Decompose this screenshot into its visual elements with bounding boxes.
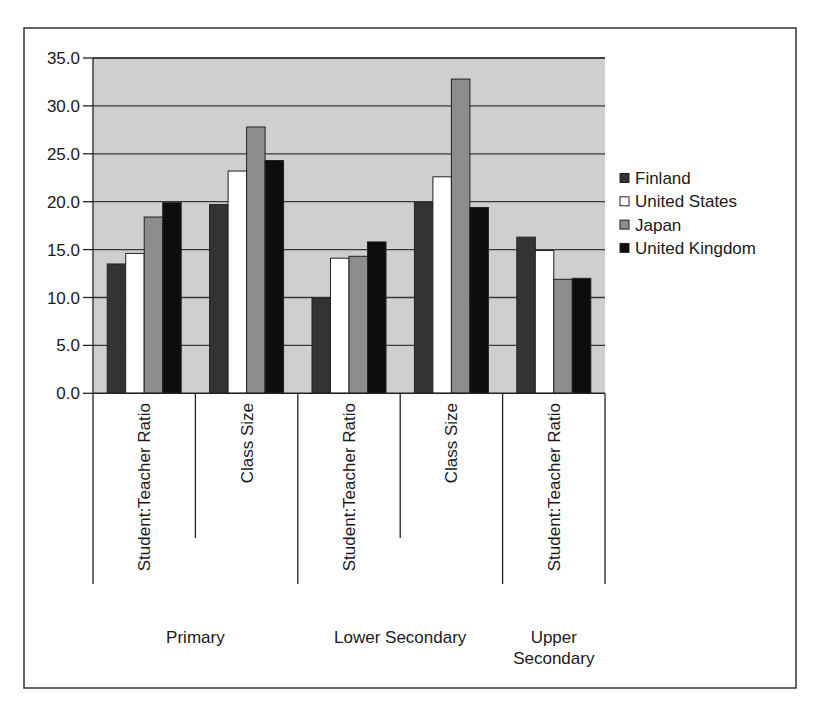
bar-united-states [331,258,350,393]
bar-united-states [228,171,247,393]
category-label: Student:Teacher Ratio [340,403,359,571]
bar-united-kingdom [163,203,182,394]
bar-finland [517,237,536,393]
bar-finland [210,205,229,394]
bar-united-kingdom [368,242,387,393]
bar-japan [451,79,470,393]
legend-swatch [620,243,629,252]
group-label: Secondary [513,649,595,668]
bar-finland [107,264,126,393]
y-tick-label: 10.0 [47,289,80,308]
category-label: Class Size [442,403,461,483]
legend-swatch [620,174,629,183]
legend-label: Finland [635,169,691,188]
y-tick-label: 5.0 [56,336,80,355]
legend-swatch [620,197,629,206]
y-tick-label: 30.0 [47,97,80,116]
bar-japan [247,127,266,393]
y-tick-label: 0.0 [56,384,80,403]
legend-label: Japan [635,216,681,235]
legend-label: United Kingdom [635,239,756,258]
bar-united-states [126,253,145,393]
legend-label: United States [635,192,737,211]
bar-united-kingdom [470,207,489,393]
y-tick-label: 15.0 [47,241,80,260]
group-label: Lower Secondary [334,628,467,647]
legend-swatch [620,220,629,229]
y-tick-label: 25.0 [47,145,80,164]
bar-united-states [535,251,554,394]
category-label: Student:Teacher Ratio [545,403,564,571]
bar-united-states [433,177,452,394]
bar-japan [144,217,163,393]
bar-japan [554,279,573,393]
bar-united-kingdom [265,161,284,394]
y-tick-label: 35.0 [47,49,80,68]
group-label: Upper [531,628,578,647]
chart: 0.05.010.015.020.025.030.035.0 Student:T… [0,0,814,712]
bar-japan [349,256,368,393]
bar-finland [414,203,433,394]
bar-finland [312,298,331,393]
y-tick-label: 20.0 [47,193,80,212]
category-label: Class Size [238,403,257,483]
bar-united-kingdom [572,278,591,393]
group-label: Primary [166,628,225,647]
category-label: Student:Teacher Ratio [135,403,154,571]
